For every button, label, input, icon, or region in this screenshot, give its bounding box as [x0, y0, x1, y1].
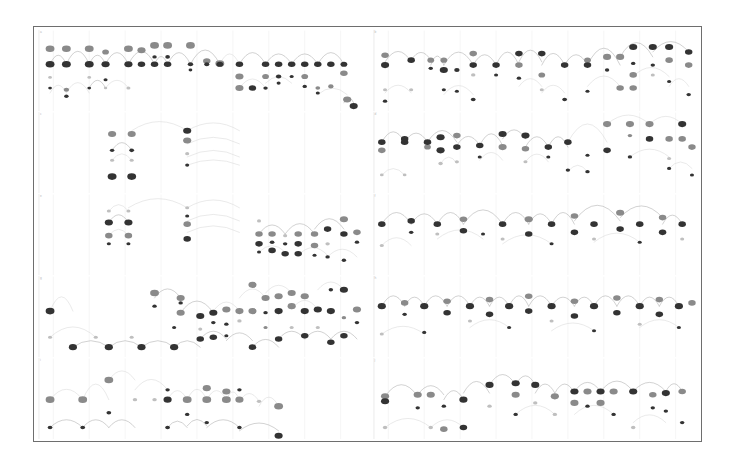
data-point	[236, 61, 243, 67]
data-point	[436, 147, 444, 153]
panel-label-p9: j	[375, 358, 376, 362]
data-point	[544, 144, 551, 150]
data-point	[433, 221, 440, 227]
data-point	[353, 306, 361, 312]
data-point	[249, 85, 256, 91]
data-point	[126, 87, 130, 90]
data-point	[511, 380, 519, 386]
data-point	[106, 411, 111, 415]
data-point	[635, 303, 643, 309]
data-point	[438, 162, 442, 165]
panel-plot-p9	[372, 357, 699, 439]
data-point	[128, 131, 136, 137]
data-point	[655, 312, 662, 318]
data-point	[454, 160, 458, 163]
data-point	[85, 61, 94, 68]
data-point	[564, 139, 571, 145]
data-point	[415, 406, 419, 409]
data-point	[678, 389, 685, 395]
data-point	[353, 230, 360, 236]
data-point	[469, 51, 476, 57]
panel-p8: i	[37, 357, 364, 439]
data-point	[62, 45, 71, 52]
data-point	[629, 85, 636, 91]
panel-p0: a	[37, 29, 364, 111]
data-point	[325, 242, 329, 245]
data-point	[165, 388, 169, 391]
data-point	[583, 62, 590, 68]
data-point	[547, 221, 554, 227]
data-point	[635, 221, 642, 227]
data-point	[355, 241, 359, 244]
data-point	[216, 62, 223, 67]
data-point	[441, 405, 445, 408]
data-point	[281, 251, 288, 257]
data-point	[485, 312, 492, 318]
data-point	[341, 62, 348, 67]
data-point	[658, 230, 665, 236]
data-point	[202, 396, 211, 403]
data-point	[150, 290, 159, 297]
gridlines	[373, 276, 675, 357]
data-point	[127, 173, 136, 180]
data-point	[340, 333, 347, 339]
gridlines	[39, 276, 341, 357]
data-point	[379, 333, 383, 336]
data-point	[658, 215, 665, 221]
data-point	[650, 73, 654, 76]
data-point	[152, 398, 156, 401]
data-point	[235, 85, 243, 91]
data-point	[679, 421, 683, 424]
panel-p5: f	[372, 193, 699, 275]
data-point	[603, 54, 611, 60]
data-point	[165, 55, 170, 59]
dot-layer	[380, 380, 685, 432]
data-point	[650, 63, 654, 66]
data-point	[188, 62, 193, 66]
data-point	[222, 396, 231, 403]
data-point	[680, 237, 684, 240]
data-point	[684, 49, 691, 55]
data-point	[101, 61, 109, 67]
data-point	[465, 303, 473, 309]
data-point	[224, 334, 228, 337]
data-point	[301, 74, 308, 79]
data-point	[382, 426, 386, 429]
data-point	[459, 397, 467, 403]
data-point	[301, 293, 309, 299]
data-point	[314, 61, 321, 67]
data-point	[355, 321, 359, 324]
data-point	[275, 433, 283, 439]
data-point	[48, 336, 52, 339]
data-point	[177, 310, 185, 316]
data-point	[172, 326, 176, 329]
data-point	[400, 300, 407, 306]
data-point	[108, 131, 116, 137]
data-point	[596, 400, 604, 406]
dot-layer	[377, 294, 695, 336]
data-point	[409, 88, 413, 91]
data-point	[350, 103, 358, 109]
panel-p6: g	[37, 275, 364, 357]
data-point	[62, 61, 71, 68]
data-point	[276, 75, 281, 79]
data-point	[424, 145, 431, 150]
data-point	[46, 308, 55, 315]
data-point	[655, 297, 662, 303]
panel-label-p1: b	[375, 30, 377, 34]
data-point	[453, 133, 460, 139]
data-point	[547, 303, 555, 309]
data-point	[328, 84, 333, 88]
panel-label-p0: a	[40, 30, 42, 34]
data-point	[312, 254, 316, 257]
data-point	[550, 393, 558, 399]
data-point	[203, 385, 211, 391]
data-point	[183, 396, 192, 403]
data-point	[604, 68, 608, 71]
data-point	[107, 210, 111, 213]
data-point	[288, 303, 296, 309]
data-point	[183, 221, 190, 227]
data-point	[110, 159, 114, 162]
data-point	[453, 144, 460, 150]
data-point	[590, 221, 597, 227]
